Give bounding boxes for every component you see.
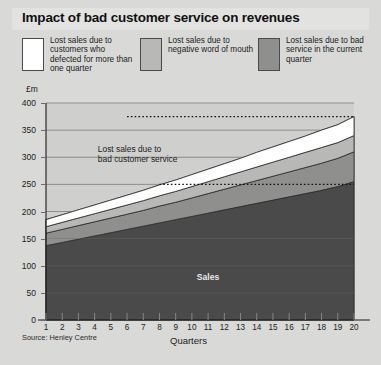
sales-area-label: Sales [168,272,248,282]
y-axis-label: 0 [10,315,36,325]
y-axis-tick [41,293,45,294]
y-axis-label: 300 [10,152,36,162]
legend-label-word-of-mouth: Lost sales due to negative word of mouth [168,36,256,55]
x-axis-label: 4 [88,323,102,332]
y-axis-tick [41,157,45,158]
x-axis-label: 10 [185,323,199,332]
y-axis-label: 250 [10,179,36,189]
x-axis-label: 15 [266,323,280,332]
y-axis-unit-label: £m [26,84,38,94]
x-axis-label: 2 [55,323,69,332]
legend-label-current-quarter: Lost sales due to bad service in the cur… [286,36,374,64]
y-axis-tick [41,103,45,104]
inline-annotation: Lost sales due to bad customer service [98,145,178,164]
x-axis-label: 17 [298,323,312,332]
y-axis-label: 350 [10,125,36,135]
y-axis-tick [41,184,45,185]
x-axis-label: 19 [331,323,345,332]
legend-swatch-current-quarter [258,38,280,71]
y-axis-tick [41,130,45,131]
x-axis-label: 14 [250,323,264,332]
x-axis-label: 16 [282,323,296,332]
y-axis-tick [41,239,45,240]
chart-page: Impact of bad customer service on revenu… [0,0,381,365]
y-axis-label: 100 [10,261,36,271]
x-axis-label: 11 [201,323,215,332]
x-axis-label: 7 [136,323,150,332]
y-axis-label: 400 [10,98,36,108]
x-axis-title: Quarters [170,335,207,346]
y-axis-tick [41,320,45,321]
x-axis-label: 1 [39,323,53,332]
x-axis-label: 5 [104,323,118,332]
legend-label-defected: Lost sales due to customers who defected… [50,36,138,73]
x-axis-label: 8 [152,323,166,332]
x-axis-label: 13 [234,323,248,332]
y-axis-label: 50 [10,288,36,298]
y-axis-tick [41,266,45,267]
source-note: Source: Henley Centre [22,333,97,342]
x-axis-label: 20 [347,323,361,332]
plot-area: £m Lost sales due to bad customer servic… [0,80,381,365]
y-axis-tick [41,212,45,213]
chart-legend: Lost sales due to customers who defected… [22,36,370,76]
page-title: Impact of bad customer service on revenu… [22,10,299,25]
x-axis-label: 3 [71,323,85,332]
x-axis-label: 18 [315,323,329,332]
x-axis-label: 9 [169,323,183,332]
legend-swatch-word-of-mouth [140,38,162,71]
x-axis-label: 6 [120,323,134,332]
y-axis-label: 150 [10,234,36,244]
y-axis-label: 200 [10,207,36,217]
legend-swatch-defected [22,38,44,71]
x-axis-label: 12 [217,323,231,332]
